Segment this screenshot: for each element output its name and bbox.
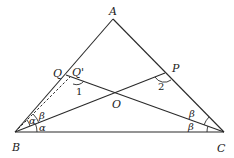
- angle-arc-c-beta-lower: [207, 126, 208, 132]
- label-p: P: [171, 62, 180, 75]
- label-a: A: [108, 5, 117, 18]
- label-angle-2: 2: [158, 81, 164, 92]
- label-beta-c-upper: β: [188, 108, 195, 119]
- label-b: B: [11, 141, 20, 154]
- label-alpha-lower: α: [39, 122, 46, 133]
- angle-arc-c-beta-upper: [204, 117, 209, 125]
- label-q-prime: Q': [72, 66, 84, 79]
- triangle-diagram: A B C Q Q' P O 1 2 α α β β β: [0, 0, 234, 158]
- label-c: C: [217, 142, 226, 155]
- label-o: O: [112, 98, 121, 111]
- label-alpha-upper: α: [29, 115, 36, 126]
- label-q: Q: [53, 67, 62, 80]
- label-angle-1: 1: [76, 86, 82, 97]
- side-ac: [113, 19, 224, 132]
- label-beta-c-lower: β: [187, 121, 194, 132]
- segment-cq: [66, 75, 224, 132]
- angle-arc-1: [73, 81, 84, 85]
- label-beta-b: β: [38, 110, 45, 121]
